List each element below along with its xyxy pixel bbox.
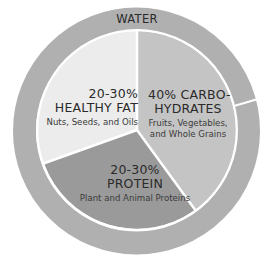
water-label: WATER [112, 12, 162, 26]
healthy-fat-percent: 20-30% [44, 88, 138, 101]
carbohydrates-description-1: Fruits, Vegetables, [148, 119, 228, 128]
healthy-fat-label: 20-30% HEALTHY FAT Nuts, Seeds, and Oils [44, 88, 138, 127]
protein-description: Plant and Animal Proteins [70, 194, 200, 203]
protein-title: PROTEIN [70, 178, 200, 191]
healthy-fat-title: HEALTHY FAT [44, 102, 138, 115]
protein-percent: 20-30% [70, 164, 200, 177]
carbohydrates-title: HYDRATES [148, 103, 228, 116]
carbohydrates-percent: 40% CARBO- [148, 89, 228, 102]
nutrition-pie-diagram [0, 0, 280, 269]
carbohydrates-label: 40% CARBO- HYDRATES Fruits, Vegetables, … [148, 89, 228, 138]
healthy-fat-description: Nuts, Seeds, and Oils [44, 118, 138, 127]
carbohydrates-description-2: and Whole Grains [148, 130, 228, 139]
protein-label: 20-30% PROTEIN Plant and Animal Proteins [70, 164, 200, 203]
